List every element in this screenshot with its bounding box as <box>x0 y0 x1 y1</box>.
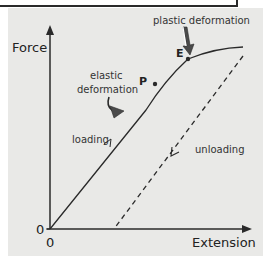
loading-label: loading <box>72 135 109 145</box>
point-e-label: E <box>176 48 184 59</box>
y-axis-label: Force <box>12 41 47 54</box>
elastic-label-line1: elastic <box>90 71 122 81</box>
y-origin-label: 0 <box>36 223 44 236</box>
unloading-label: unloading <box>195 145 245 155</box>
point-e-marker <box>186 57 190 61</box>
x-axis-label: Extension <box>192 236 256 249</box>
unloading-line <box>114 56 243 229</box>
plastic-deformation-label: plastic deformation <box>153 16 250 26</box>
x-origin-label: 0 <box>46 236 54 249</box>
plastic-deformation-arrow-icon <box>183 27 194 55</box>
x-axis-arrow-icon <box>242 225 252 233</box>
point-p-marker <box>153 82 157 86</box>
y-axis <box>46 25 54 229</box>
elastic-deformation-arrow-icon <box>108 97 124 118</box>
point-p-label: P <box>139 76 147 87</box>
elastic-label-line2: deformation <box>77 85 138 95</box>
x-axis <box>47 225 252 233</box>
y-axis-arrow-icon <box>46 25 54 35</box>
